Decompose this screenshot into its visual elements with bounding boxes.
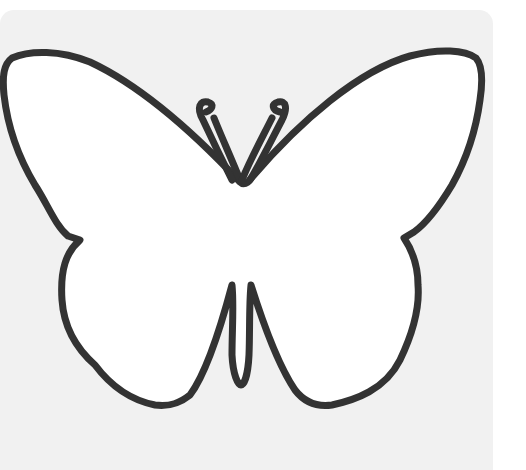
butterfly-outline (3, 51, 481, 406)
butterfly-wings (3, 51, 481, 406)
